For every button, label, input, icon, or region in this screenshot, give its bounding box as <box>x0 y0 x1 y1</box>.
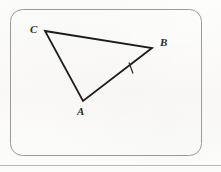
vertex-label-b: B <box>160 37 168 48</box>
vertex-label-c: C <box>30 24 38 35</box>
figure-page: C B A <box>0 0 221 172</box>
vertex-label-a: A <box>77 106 85 117</box>
triangle-shape <box>45 31 152 101</box>
